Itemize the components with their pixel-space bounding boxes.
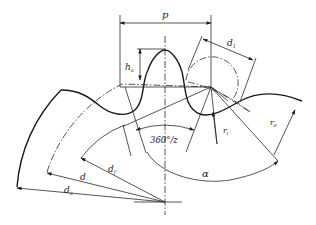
ri-arrow [213,112,217,144]
label-re: re [270,118,277,128]
label-d1: d1 [227,38,236,49]
d1-ext-left [188,36,202,70]
label-p: p [162,9,169,20]
tooth-profile [61,50,302,115]
alpha-angle-arc [147,152,278,181]
label-d: d [80,172,86,182]
left-construction-line [125,87,146,153]
re-arrow [274,110,295,155]
label-ri: ri [223,126,229,136]
label-da: da [64,185,73,196]
label-pitch-angle: 360°/z [150,135,178,145]
sprocket-tooth-diagram: p ha d1 ri re 360°/z α d df da [0,0,316,225]
tip-circle-arc [17,90,61,187]
root-arc-start-line [123,125,131,156]
root-circle-arc [81,125,125,158]
label-ha: ha [125,62,134,73]
label-alpha: α [202,168,209,179]
